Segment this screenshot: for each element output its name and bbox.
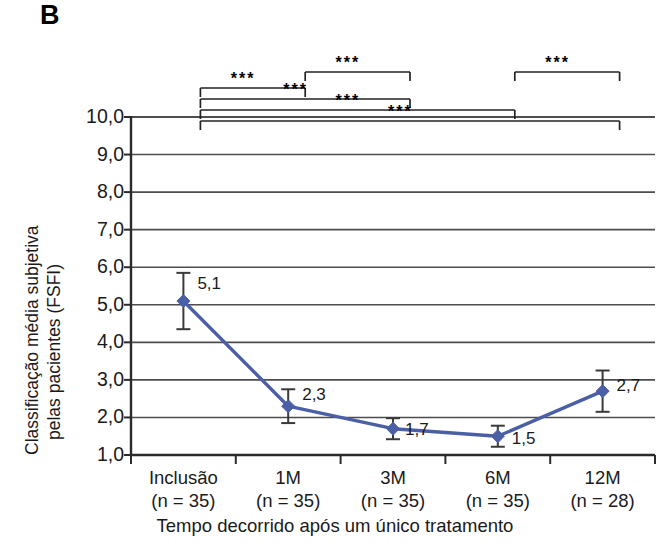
x-axis-tick-label: 3M(n = 35) <box>333 466 453 512</box>
significance-stars: *** <box>388 104 413 120</box>
data-value-label: 1,5 <box>512 430 536 447</box>
x-axis-tick-label: 6M(n = 35) <box>438 466 558 512</box>
x-tick-category: 3M <box>380 467 406 488</box>
significance-stars: *** <box>231 71 256 87</box>
data-value-label: 2,7 <box>617 377 641 394</box>
significance-bracket <box>305 72 410 81</box>
x-axis-title: Tempo decorrido após um único tratamento <box>0 515 670 537</box>
significance-stars: *** <box>545 55 570 71</box>
x-tick-category: Inclusão <box>149 467 218 488</box>
significance-bracket <box>200 99 410 108</box>
x-tick-sample-size: (n = 35) <box>228 489 348 512</box>
x-tick-sample-size: (n = 35) <box>333 489 453 512</box>
x-axis-tick-label: Inclusão(n = 35) <box>123 466 243 512</box>
data-point-marker <box>491 430 504 443</box>
x-tick-sample-size: (n = 35) <box>123 489 243 512</box>
figure-panel-b: B Classificação média subjetiva pelas pa… <box>0 0 670 551</box>
x-tick-category: 12M <box>585 467 621 488</box>
x-tick-sample-size: (n = 28) <box>543 489 663 512</box>
data-line <box>183 301 602 436</box>
significance-bracket <box>515 72 620 81</box>
significance-stars: *** <box>336 93 361 109</box>
data-value-label: 1,7 <box>405 421 429 438</box>
data-point-marker <box>387 422 400 435</box>
data-value-label: 5,1 <box>197 275 221 292</box>
x-tick-category: 6M <box>485 467 511 488</box>
x-tick-category: 1M <box>275 467 301 488</box>
significance-stars: *** <box>336 55 361 71</box>
x-axis-tick-label: 12M(n = 28) <box>543 466 663 512</box>
data-point-marker <box>596 385 609 398</box>
data-value-label: 2,3 <box>302 386 326 403</box>
x-axis-tick-label: 1M(n = 35) <box>228 466 348 512</box>
significance-bracket <box>200 121 619 130</box>
x-tick-sample-size: (n = 35) <box>438 489 558 512</box>
significance-stars: *** <box>283 82 308 98</box>
